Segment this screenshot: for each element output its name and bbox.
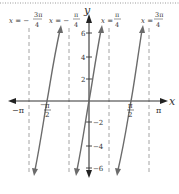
y-tick-neg-4: −4: [93, 143, 104, 151]
curve-3-top-arrow-icon: [139, 25, 145, 33]
curve-2-top-arrow-icon: [98, 25, 104, 33]
svg-text:3π: 3π: [155, 11, 164, 19]
svg-text:3π: 3π: [34, 11, 43, 19]
svg-text:4: 4: [35, 21, 39, 29]
asymptote-label-3pi-4: x = 3π 4: [141, 11, 164, 29]
svg-text:π: π: [115, 11, 120, 19]
x-tick-half-pi: π 2: [127, 102, 134, 119]
y-tick-4: 4: [81, 54, 86, 62]
asymptote-label-neg-pi-4: x = − π 4: [49, 11, 80, 29]
curve-branch-3: [118, 30, 142, 170]
y-tick-2: 2: [81, 76, 85, 84]
svg-text:x =: x =: [101, 17, 113, 25]
svg-text:π: π: [45, 102, 50, 110]
curve-1-top-arrow-icon: [57, 25, 63, 33]
svg-text:4: 4: [74, 21, 78, 29]
svg-text:4: 4: [156, 21, 160, 29]
x-tick-neg-pi: −π: [12, 106, 24, 115]
x-tick-neg-half-pi: − π 2: [40, 101, 51, 119]
svg-text:2: 2: [45, 111, 49, 119]
curve-2-bottom-arrow-icon: [74, 168, 80, 176]
svg-text:π: π: [128, 102, 133, 110]
svg-text:x = −: x = −: [49, 17, 69, 25]
y-tick-neg-6: −6: [93, 165, 104, 173]
svg-text:x = −: x = −: [9, 17, 29, 25]
asymptote-label-neg-3pi-4: x = − 3π 4: [9, 11, 43, 29]
y-axis-label: y: [83, 4, 91, 17]
curve-3-bottom-arrow-icon: [115, 168, 121, 176]
x-axis-left-arrow-icon: [8, 98, 16, 104]
x-axis-right-arrow-icon: [160, 98, 168, 104]
svg-text:2: 2: [128, 111, 132, 119]
y-tick-6: 6: [81, 30, 86, 38]
x-tick-pi: π: [156, 106, 161, 115]
curve-1-bottom-arrow-icon: [32, 168, 38, 176]
curve-branch-1: [35, 30, 60, 170]
asymptote-label-pi-4: x = π 4: [101, 11, 121, 29]
y-axis-down-arrow-icon: [86, 170, 92, 178]
svg-text:x =: x =: [141, 17, 153, 25]
svg-text:π: π: [74, 11, 79, 19]
x-axis-label: x: [169, 95, 176, 108]
y-axis: [86, 14, 92, 178]
y-tick-neg-2: −2: [93, 119, 103, 127]
svg-text:4: 4: [115, 21, 119, 29]
tangent-graph: y x −π π − π 2 π 2 6 4 2 −2 −4 −6 x = − …: [0, 0, 179, 194]
